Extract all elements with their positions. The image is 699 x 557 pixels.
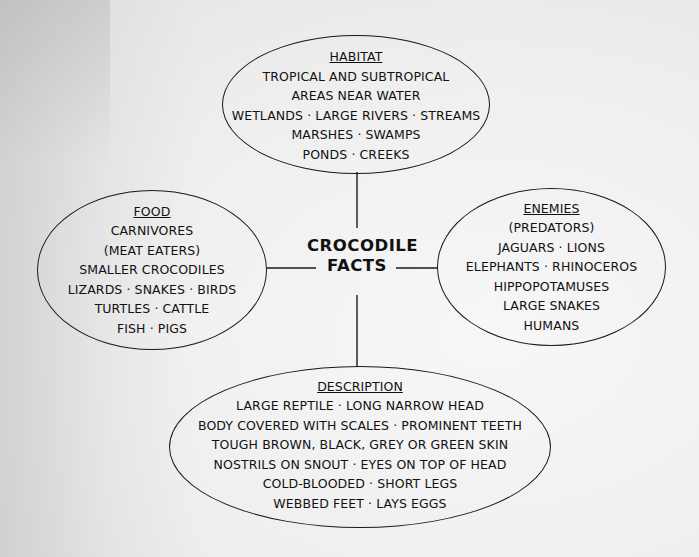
habitat-line: MARSHES · SWAMPS [291, 125, 420, 145]
description-line: TOUGH BROWN, BLACK, GREY OR GREEN SKIN [212, 435, 508, 455]
description-bubble: DESCRIPTION LARGE REPTILE · LONG NARROW … [169, 366, 551, 528]
habitat-line: AREAS NEAR WATER [291, 86, 420, 106]
center-title: CROCODILE FACTS [307, 236, 407, 276]
center-title-line2: FACTS [307, 256, 407, 276]
food-line: TURTLES · CATTLE [95, 299, 210, 319]
food-line: CARNIVORES [111, 221, 194, 241]
description-line: COLD-BLOODED · SHORT LEGS [263, 474, 458, 494]
description-line: BODY COVERED WITH SCALES · PROMINENT TEE… [198, 416, 522, 436]
description-line: WEBBED FEET · LAYS EGGS [273, 494, 446, 514]
description-title: DESCRIPTION [317, 377, 403, 397]
food-line: SMALLER CROCODILES [79, 260, 224, 280]
food-bubble: FOOD CARNIVORES (MEAT EATERS) SMALLER CR… [37, 190, 267, 350]
habitat-line: WETLANDS · LARGE RIVERS · STREAMS [232, 106, 481, 126]
description-line: NOSTRILS ON SNOUT · EYES ON TOP OF HEAD [214, 455, 507, 475]
enemies-line: HUMANS [524, 316, 580, 336]
habitat-line: PONDS · CREEKS [303, 145, 410, 165]
habitat-line: TROPICAL AND SUBTROPICAL [263, 67, 450, 87]
habitat-title: HABITAT [330, 47, 383, 67]
enemies-line: ELEPHANTS · RHINOCEROS [466, 257, 637, 277]
enemies-line: HIPPOPOTAMUSES [494, 277, 610, 297]
enemies-bubble: ENEMIES (PREDATORS) JAGUARS · LIONS ELEP… [437, 188, 666, 346]
center-title-line1: CROCODILE [307, 236, 407, 256]
enemies-line: (PREDATORS) [508, 218, 594, 238]
enemies-line: JAGUARS · LIONS [498, 238, 605, 258]
description-line: LARGE REPTILE · LONG NARROW HEAD [236, 396, 484, 416]
food-line: FISH · PIGS [117, 319, 187, 339]
food-title: FOOD [134, 202, 171, 222]
food-line: LIZARDS · SNAKES · BIRDS [68, 280, 237, 300]
enemies-title: ENEMIES [523, 199, 579, 219]
food-line: (MEAT EATERS) [104, 241, 201, 261]
enemies-line: LARGE SNAKES [503, 296, 600, 316]
habitat-bubble: HABITAT TROPICAL AND SUBTROPICAL AREAS N… [222, 35, 490, 174]
